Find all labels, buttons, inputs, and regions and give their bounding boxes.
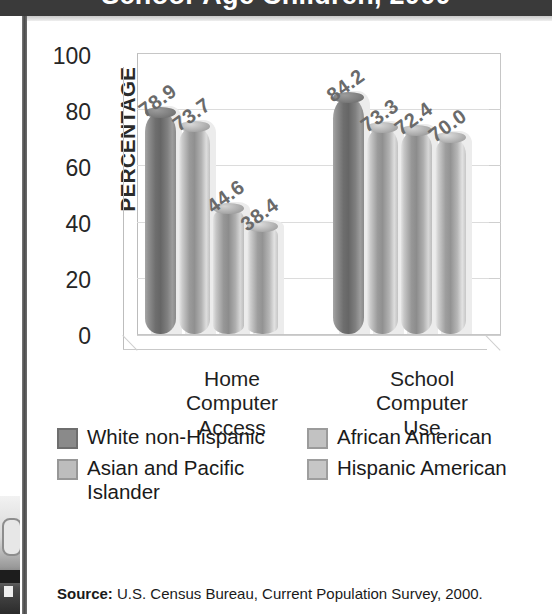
y-tick-0: 0 xyxy=(37,325,91,348)
legend-label: White non-Hispanic xyxy=(87,425,265,449)
category-line: Computer xyxy=(327,391,517,415)
y-axis-line xyxy=(123,67,124,349)
legend-item-white-non-hispanic[interactable]: White non-Hispanic xyxy=(57,425,307,449)
bar-body xyxy=(213,208,244,334)
floor-front-edge xyxy=(123,349,487,350)
y-tick-100: 100 xyxy=(37,45,91,68)
bar-4-group-2[interactable] xyxy=(435,137,466,334)
y-tick-20: 20 xyxy=(37,269,91,292)
legend-label: Asian and Pacific Islander xyxy=(87,456,307,504)
artifact-shape-mark xyxy=(4,586,13,597)
bar-body xyxy=(145,112,176,334)
bar-3-group-2[interactable] xyxy=(401,130,432,334)
bar-body xyxy=(401,130,432,334)
chart-card: PERCENTAGE 100 80 60 40 20 0 xyxy=(27,21,552,614)
right-tick-40 xyxy=(489,222,501,223)
chart-legend: White non-Hispanic Asian and Pacific Isl… xyxy=(57,425,547,509)
category-line: School xyxy=(327,367,517,391)
page-title: School-Age Children, 2000 xyxy=(101,0,451,11)
adjacent-page-artifact xyxy=(0,496,20,614)
floor-right-edge xyxy=(486,335,502,350)
legend-item-hispanic-american[interactable]: Hispanic American xyxy=(307,456,552,480)
right-tick-60 xyxy=(489,165,501,166)
bar-body xyxy=(367,127,398,334)
bar-body xyxy=(435,137,466,334)
right-tick-80 xyxy=(489,109,501,110)
bar-chart: PERCENTAGE 100 80 60 40 20 0 xyxy=(27,27,552,427)
scanned-page: School-Age Children, 2000 PERCENTAGE 100… xyxy=(0,0,552,614)
bar-body xyxy=(179,126,210,334)
floor-back-edge xyxy=(137,335,501,336)
y-tick-40: 40 xyxy=(37,213,91,236)
legend-label: African American xyxy=(337,425,492,449)
bar-1-group-2[interactable] xyxy=(333,97,364,334)
bar-2-group-2[interactable] xyxy=(367,127,398,334)
bar-1-group-1[interactable] xyxy=(145,112,176,334)
right-tick-20 xyxy=(489,278,501,279)
bar-4-group-1[interactable] xyxy=(247,226,278,334)
bar-body xyxy=(333,97,364,334)
category-line: Home xyxy=(137,367,327,391)
y-tick-80: 80 xyxy=(37,101,91,124)
y-tick-60: 60 xyxy=(37,157,91,180)
legend-swatch-white-non-hispanic xyxy=(57,428,78,449)
category-line: Computer xyxy=(137,391,327,415)
plot-floor xyxy=(123,335,501,350)
bar-body xyxy=(247,226,278,334)
bar-3-group-1[interactable] xyxy=(213,208,244,334)
floor-left-edge xyxy=(123,335,138,350)
legend-swatch-hispanic-american xyxy=(307,459,328,480)
source-note: Source: U.S. Census Bureau, Current Popu… xyxy=(57,585,552,602)
source-label: Source: xyxy=(57,585,113,602)
source-text: U.S. Census Bureau, Current Population S… xyxy=(117,585,483,602)
legend-swatch-asian-and-pacific-islander xyxy=(57,459,78,480)
legend-swatch-african-american xyxy=(307,428,328,449)
artifact-shape-bar xyxy=(0,570,20,583)
page-title-band: School-Age Children, 2000 xyxy=(0,0,552,16)
plot-area: 78.973.744.638.484.273.372.470.0 xyxy=(123,53,501,349)
legend-item-asian-and-pacific-islander[interactable]: Asian and Pacific Islander xyxy=(57,456,307,504)
artifact-shape-oval xyxy=(2,518,20,556)
bar-2-group-1[interactable] xyxy=(179,126,210,334)
legend-label: Hispanic American xyxy=(337,456,507,480)
legend-item-african-american[interactable]: African American xyxy=(307,425,552,449)
